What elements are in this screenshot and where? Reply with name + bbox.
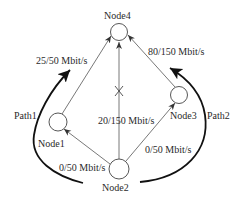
node3-circle	[171, 87, 188, 104]
node3-label: Node3	[170, 110, 197, 121]
network-diagram: Node4 Node1 Node3 Node2 25/50 Mbit/s 80/…	[0, 0, 242, 204]
edge-node3-node4	[128, 35, 175, 87]
node2-label: Node2	[102, 182, 129, 193]
node2-circle	[109, 159, 129, 179]
edge-node1-node4	[62, 36, 111, 114]
path2-label: Path2	[207, 110, 230, 121]
edge-node2-node1	[64, 129, 110, 164]
node1-circle	[49, 113, 67, 131]
edge-label-node2-node3: 0/50 Mbit/s	[145, 144, 192, 155]
edge-label-node2-node4: 20/150 Mbit/s	[98, 115, 155, 126]
edge-label-node2-node1: 0/50 Mbit/s	[59, 162, 106, 173]
edge-label-node1-node4: 25/50 Mbit/s	[36, 55, 88, 66]
edge-label-node3-node4: 80/150 Mbit/s	[148, 46, 205, 57]
path1-label: Path1	[14, 110, 37, 121]
node1-label: Node1	[38, 138, 65, 149]
node4-label: Node4	[104, 10, 131, 21]
node4-circle	[111, 24, 128, 41]
